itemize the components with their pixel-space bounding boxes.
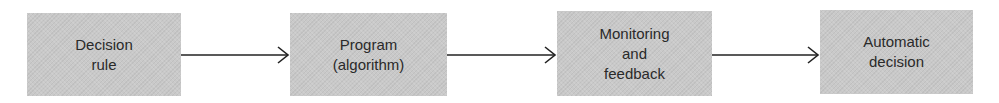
node-label: Automatic decision xyxy=(863,32,930,72)
node-automatic-decision: Automatic decision xyxy=(820,10,973,94)
node-label: Program (algorithm) xyxy=(333,35,405,75)
arrow-icon xyxy=(447,45,557,65)
arrow-icon xyxy=(712,45,820,65)
arrow-icon xyxy=(181,45,290,65)
node-label: Decision rule xyxy=(75,35,133,75)
node-label: Monitoring and feedback xyxy=(599,24,669,84)
node-program: Program (algorithm) xyxy=(290,13,447,96)
node-decision-rule: Decision rule xyxy=(27,13,181,96)
node-monitoring: Monitoring and feedback xyxy=(557,11,712,96)
